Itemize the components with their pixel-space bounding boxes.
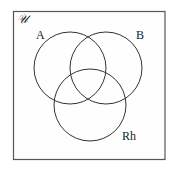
venn-diagram: 𝒰 A B Rh xyxy=(0,0,177,169)
set-a-label: A xyxy=(36,28,45,42)
set-rh-label: Rh xyxy=(122,129,136,143)
set-b-label: B xyxy=(136,28,144,42)
